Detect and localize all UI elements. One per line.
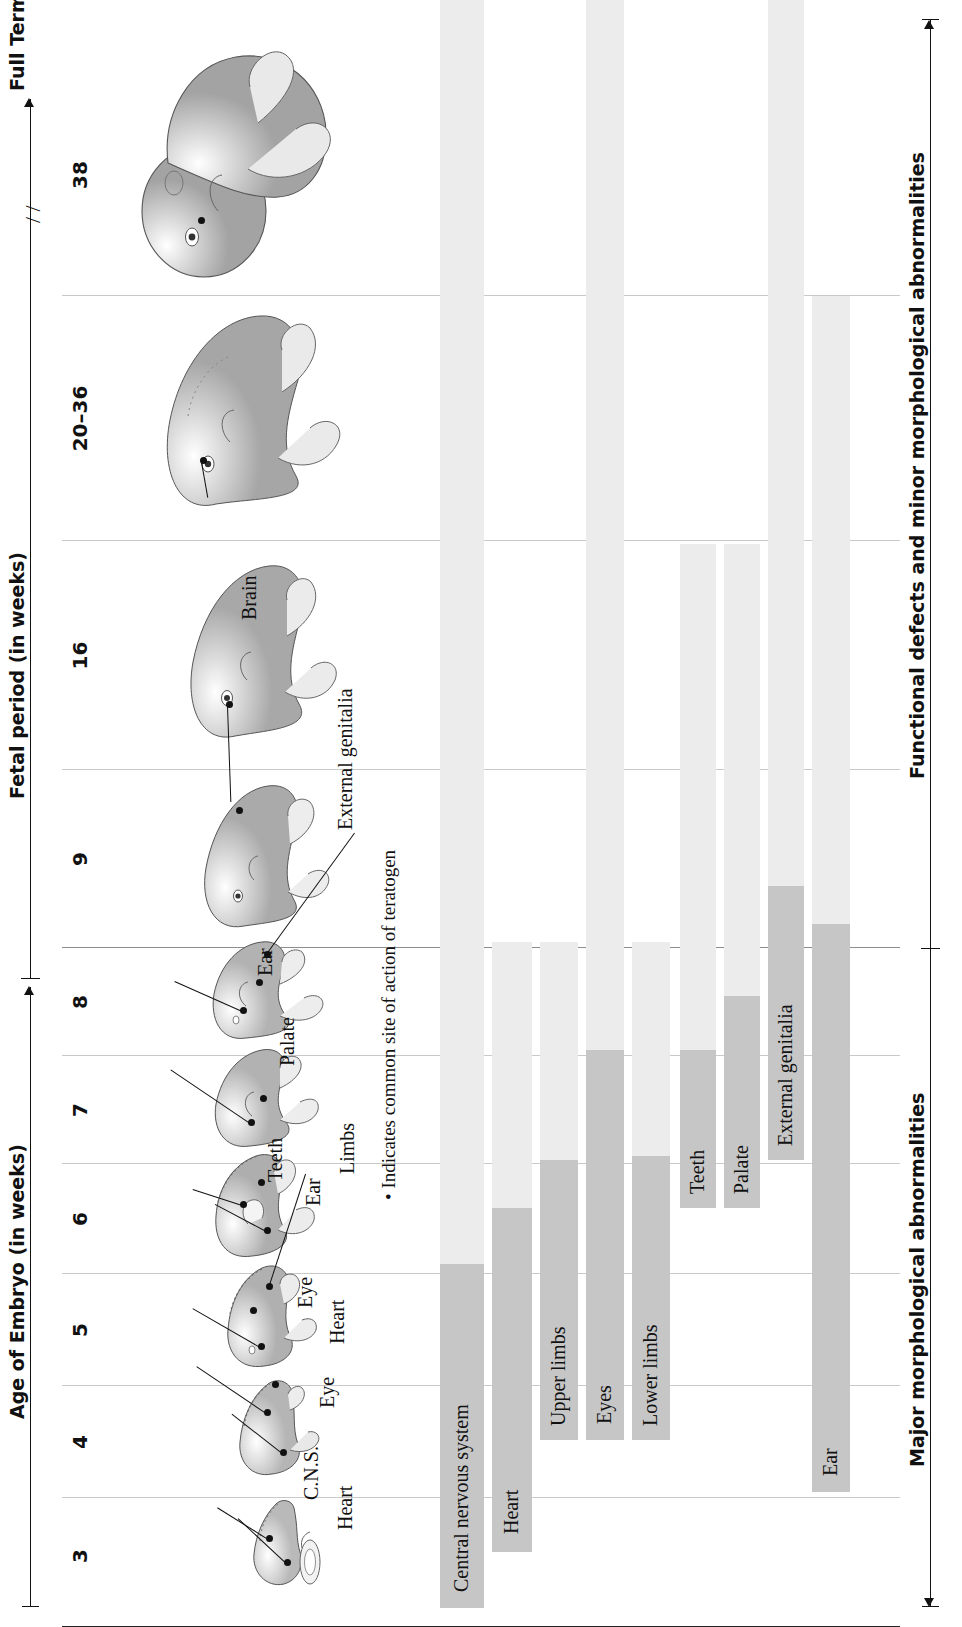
bar-lane-eyes: Eyes <box>586 0 624 1626</box>
minor-abnormalities-label: Functional defects and minor morphologic… <box>906 144 928 787</box>
critical-periods-figure: Age of Embryo (in weeks) Fetal period (i… <box>0 0 962 1627</box>
fetus-drawing-week-16 <box>183 556 343 746</box>
chart-grid: 3 4 5 6 7 8 9 16 20–36 38 <box>62 0 900 1627</box>
teratogen-legend-note: • Indicates common site of action of ter… <box>378 850 400 1200</box>
callout-palate-week7: Palate <box>276 1017 299 1066</box>
callout-heart-week3: Heart <box>334 1486 357 1530</box>
top-axis: Age of Embryo (in weeks) Fetal period (i… <box>0 0 62 1627</box>
bottom-axis: Major morphological abnormalities Functi… <box>900 0 962 1627</box>
fetus-drawing-week-20-36 <box>158 306 353 516</box>
callout-brain-week16: Brain <box>238 576 261 620</box>
bar-lane-heart: Heart <box>492 0 532 1626</box>
callout-teeth-week6: Teeth <box>264 1138 287 1182</box>
bar-low-central-nervous-system <box>440 0 484 1264</box>
embryo-illustrations: Heart C.N.S. Eye Heart Eye Limbs Ear Tee… <box>88 0 388 1626</box>
axis-break-mark: / / <box>20 205 46 223</box>
callout-external-genitalia: External genitalia <box>334 688 357 830</box>
bar-lane-central-nervous-system: Central nervous system <box>440 0 484 1626</box>
callout-ear-week8: Ear <box>254 948 277 976</box>
bar-label-palate: Palate <box>730 1145 753 1194</box>
bar-low-eyes <box>586 0 624 1050</box>
callout-eye-week5: Eye <box>294 1277 317 1308</box>
bar-label-teeth: Teeth <box>686 1150 709 1194</box>
bar-lane-upper-limbs: Upper limbs <box>540 0 578 1626</box>
bar-low-upper-limbs <box>540 942 578 1160</box>
teratogen-site-dot <box>256 979 263 986</box>
bar-low-teeth <box>680 544 716 1050</box>
teratogen-site-dot <box>236 807 243 814</box>
bar-label-central-nervous-system: Central nervous system <box>450 1404 473 1592</box>
teratogen-site-dot <box>250 1307 257 1314</box>
teratogen-site-dot <box>272 1381 279 1388</box>
bar-label-lower-limbs: Lower limbs <box>639 1324 662 1426</box>
callout-limbs-week4: Limbs <box>336 1123 359 1174</box>
bar-low-lower-limbs <box>632 942 670 1156</box>
bar-lane-ear: Ear <box>812 0 850 1626</box>
bar-label-external-genitalia: External genitalia <box>774 1004 797 1146</box>
bar-lane-palate: Palate <box>724 0 760 1626</box>
embryo-drawing-week-3 <box>238 1491 328 1596</box>
fetal-period-axis-label: Fetal period (in weeks) <box>6 544 28 807</box>
bar-label-upper-limbs: Upper limbs <box>547 1327 570 1426</box>
age-of-embryo-axis-label: Age of Embryo (in weeks) <box>6 1136 28 1427</box>
bar-label-heart: Heart <box>500 1490 523 1534</box>
callout-eye-week4: Eye <box>316 1377 339 1408</box>
teratogen-site-dot <box>198 217 205 224</box>
bar-low-external-genitalia <box>768 0 804 886</box>
bar-high-eyes <box>586 1050 624 1440</box>
bar-lane-lower-limbs: Lower limbs <box>632 0 670 1626</box>
major-abnormalities-label: Major morphological abnormalities <box>906 1085 928 1475</box>
bar-lane-external-genitalia: External genitalia <box>768 0 804 1626</box>
fetus-drawing-week-9 <box>198 776 333 936</box>
bar-lane-teeth: Teeth <box>680 0 716 1626</box>
bar-low-ear <box>812 296 850 924</box>
bar-label-ear: Ear <box>819 1448 842 1476</box>
teratogen-site-dot <box>260 1095 267 1102</box>
callout-ear-week6: Ear <box>302 1178 325 1206</box>
callout-heart-week5: Heart <box>326 1300 349 1344</box>
bar-low-heart <box>492 942 532 1208</box>
bar-label-eyes: Eyes <box>593 1385 616 1424</box>
bar-low-palate <box>724 544 760 996</box>
callout-cns-week3: C.N.S. <box>300 1446 323 1500</box>
fetus-drawing-week-38 <box>118 46 363 281</box>
bar-high-ear <box>812 924 850 1492</box>
full-term-label: Full Term <box>6 0 28 99</box>
